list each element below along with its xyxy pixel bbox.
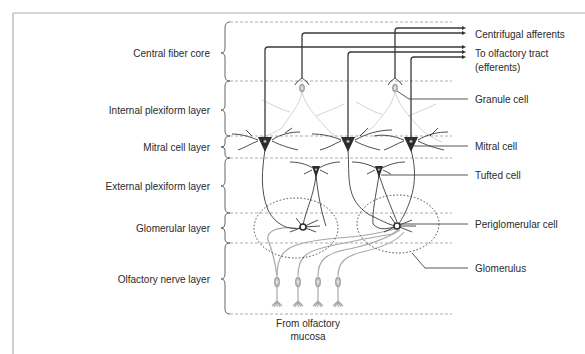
receptor-cell	[313, 277, 323, 307]
label-centrifugal-afferents: Centrifugal afferents	[475, 29, 565, 40]
tufted-cell	[290, 162, 340, 226]
brace-mitral-cell	[221, 136, 230, 158]
granule-cell	[300, 84, 305, 92]
label-periglomerular-cell: Periglomerular cell	[475, 219, 558, 230]
arrow-centrifugal-icon	[462, 26, 466, 35]
callout-labels: Centrifugal afferents To olfactory tract…	[475, 29, 565, 274]
layer-label-olfactory-nerve: Olfactory nerve layer	[118, 274, 211, 285]
mitral-cell	[374, 57, 462, 226]
brace-olfactory-nerve	[221, 243, 230, 314]
label-to-olfactory-tract: To olfactory tract	[475, 48, 549, 59]
layer-label-mitral-cell: Mitral cell layer	[143, 142, 210, 153]
label-mucosa: mucosa	[290, 331, 325, 342]
periglomerular-cell	[290, 218, 320, 232]
layer-label-internal-plexiform: Internal plexiform layer	[109, 105, 211, 116]
mitral-cell	[312, 52, 462, 226]
brace-central-fiber-core	[221, 22, 230, 81]
receptor-cell	[293, 277, 303, 307]
receptor-axons	[268, 228, 404, 276]
brace-external-plexiform	[221, 158, 230, 213]
leader-glomerulus	[412, 253, 468, 268]
layer-label-glomerular: Glomerular layer	[136, 223, 211, 234]
layer-braces	[221, 22, 230, 314]
callout-leaders	[381, 91, 468, 268]
tufted-cells	[290, 162, 405, 229]
mitral-cells	[232, 47, 462, 228]
label-from-olfactory: From olfactory	[276, 318, 340, 329]
arrow-efferent-icon	[462, 45, 466, 59]
layer-labels: Central fiber core Internal plexiform la…	[106, 48, 211, 285]
olfactory-bulb-diagram: Central fiber core Internal plexiform la…	[0, 0, 585, 354]
receptor-cell	[333, 277, 343, 307]
granule-cell	[393, 84, 398, 92]
receptor-cells	[272, 277, 343, 307]
fiber-arrows	[462, 26, 466, 59]
source-label: From olfactory mucosa	[276, 318, 340, 342]
leader-granule	[397, 91, 468, 99]
brace-internal-plexiform	[221, 81, 230, 136]
label-efferents: (efferents)	[475, 62, 520, 73]
receptor-cell	[272, 277, 282, 307]
label-glomerulus: Glomerulus	[475, 263, 526, 274]
brace-glomerular	[221, 213, 230, 243]
layer-label-external-plexiform: External plexiform layer	[106, 181, 211, 192]
label-mitral-cell: Mitral cell	[475, 141, 517, 152]
granule-dendrites	[258, 92, 442, 142]
label-granule-cell: Granule cell	[475, 94, 528, 105]
periglomerular-cells	[290, 216, 416, 232]
glomeruli	[254, 195, 439, 258]
layer-label-central-fiber-core: Central fiber core	[133, 48, 210, 59]
label-tufted-cell: Tufted cell	[475, 170, 521, 181]
